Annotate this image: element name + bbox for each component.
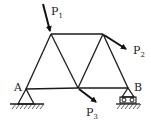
arrow-P3-icon <box>79 89 96 102</box>
ground-hatch-B <box>117 104 141 109</box>
label-P1: P1 <box>51 5 63 20</box>
node-label-A: A <box>13 81 23 94</box>
member-C-E <box>51 34 78 88</box>
member-A-C <box>26 34 51 89</box>
ground-hatch-A <box>12 104 44 109</box>
node-label-B: B <box>134 81 142 94</box>
arrow-P1-icon <box>43 4 50 31</box>
member-A-E <box>26 88 78 89</box>
truss-members <box>26 34 128 89</box>
load-P1: P1 <box>43 4 63 31</box>
label-P2: P2 <box>133 44 145 59</box>
truss-diagram: P1 P2 P3 A B <box>0 0 151 124</box>
label-P3: P3 <box>86 106 98 121</box>
load-P3: P3 <box>79 89 98 121</box>
load-P2: P2 <box>104 35 145 59</box>
member-E-D <box>78 34 103 88</box>
